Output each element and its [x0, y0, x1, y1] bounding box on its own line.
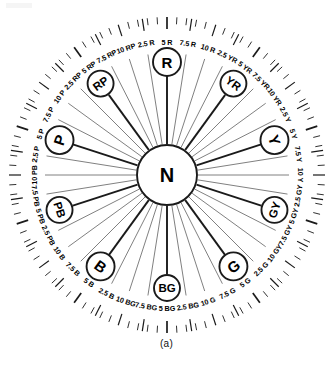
- minor-tick: [12, 145, 19, 146]
- hue-tick: [253, 293, 260, 303]
- hue-spoke: [177, 59, 205, 146]
- minor-tick: [270, 285, 275, 290]
- minor-tick: [10, 194, 17, 195]
- hue-tick: [55, 278, 63, 286]
- hue-tick: [270, 278, 278, 286]
- munsell-hue-circle-diagram: 5 R7.5 R10 R2.5 YR5 YR7.5 YR10 YR2.5 Y5 …: [0, 0, 333, 366]
- minor-tick: [137, 323, 138, 330]
- minor-tick: [12, 203, 19, 204]
- hue-tick: [118, 314, 122, 325]
- minor-tick: [195, 20, 196, 27]
- hue-tick-label: 10 B: [51, 245, 67, 262]
- hue-tick: [74, 293, 81, 303]
- minor-tick: [24, 239, 30, 242]
- hue-tick: [74, 47, 81, 57]
- minor-tick: [91, 37, 94, 43]
- hue-tick: [270, 63, 278, 71]
- hue-tick: [11, 150, 23, 152]
- hue-tick-label: 5 Y: [288, 128, 300, 141]
- hue-tick-label: 5 PB: [34, 207, 47, 225]
- minor-tick: [299, 248, 305, 251]
- hue-tick: [306, 220, 317, 224]
- hue-tick: [297, 103, 308, 108]
- hue-spoke: [81, 89, 145, 153]
- hue-tick: [190, 319, 192, 331]
- hue-tick-label: 5 GY: [287, 207, 301, 225]
- minor-tick: [20, 117, 27, 120]
- minor-tick: [66, 53, 70, 58]
- minor-tick: [147, 18, 148, 25]
- minor-tick: [34, 256, 40, 260]
- hue-tick: [39, 261, 49, 268]
- hue-spoke: [198, 180, 288, 194]
- hue-tick: [95, 34, 100, 45]
- minor-tick: [294, 256, 300, 260]
- minor-tick: [45, 271, 50, 275]
- hue-tick: [311, 198, 323, 200]
- hue-tick-label: 2.5 Y: [278, 105, 293, 124]
- hue-tick-label: 5 R: [162, 38, 174, 47]
- hue-tick: [142, 19, 144, 31]
- minor-tick: [283, 74, 288, 78]
- minor-tick: [313, 213, 320, 215]
- minor-tick: [34, 90, 40, 94]
- hue-spoke: [129, 59, 157, 146]
- hue-spoke: [177, 204, 205, 291]
- minor-tick: [10, 155, 17, 156]
- hue-tick-label: 7.5 BG: [135, 300, 159, 312]
- hue-tick-label: 7.5 P: [41, 105, 57, 124]
- hue-tick-label: 10 P: [52, 88, 68, 105]
- minor-tick: [307, 117, 314, 120]
- minor-tick: [52, 278, 57, 283]
- minor-tick: [109, 315, 112, 322]
- minor-tick: [304, 239, 310, 242]
- hue-spoke: [47, 180, 137, 194]
- hue-tick: [55, 63, 63, 71]
- minor-tick: [82, 302, 86, 308]
- hue-tick-label: 7.5 G: [218, 285, 238, 301]
- minor-tick: [294, 90, 300, 94]
- minor-tick: [313, 136, 320, 138]
- principal-hue-letter: R: [162, 54, 173, 71]
- minor-tick: [195, 323, 196, 330]
- hue-tick: [95, 305, 100, 316]
- hue-tick: [253, 47, 260, 57]
- hue-tick-label: 7.5 Y: [293, 146, 304, 164]
- minor-tick: [29, 99, 35, 102]
- hue-tick-label: 10 BG: [115, 294, 138, 309]
- hue-tick-label: 10 PB: [30, 165, 39, 184]
- minor-tick: [231, 32, 234, 38]
- minor-tick: [277, 278, 282, 283]
- minor-tick: [307, 231, 314, 234]
- minor-tick: [14, 213, 21, 215]
- minor-tick: [223, 28, 226, 35]
- hue-tick-label: 10 R: [200, 42, 218, 55]
- minor-tick: [82, 42, 86, 48]
- minor-tick: [205, 321, 207, 328]
- hue-tick-label: 2.5 P: [30, 145, 41, 163]
- hue-tick: [190, 19, 192, 31]
- hue-tick-label: 2.5 RP: [62, 70, 84, 92]
- minor-tick: [100, 312, 103, 318]
- minor-tick: [315, 203, 322, 204]
- hue-tick-label: 2.5 B: [97, 286, 116, 302]
- hue-tick-label: 7.5 GY: [277, 223, 295, 247]
- hue-tick-label: 7.5 PB: [30, 185, 42, 208]
- hue-tick-label: 10 YR: [265, 86, 284, 108]
- hue-spoke: [81, 197, 145, 261]
- hue-spoke: [189, 197, 253, 261]
- minor-tick: [100, 32, 103, 38]
- hue-tick: [26, 241, 37, 246]
- minor-tick: [248, 302, 252, 308]
- minor-tick: [317, 194, 324, 195]
- hue-tick: [142, 319, 144, 331]
- minor-tick: [147, 325, 148, 332]
- minor-tick: [137, 20, 138, 27]
- minor-tick: [231, 312, 234, 318]
- minor-tick: [299, 99, 305, 102]
- hue-spoke: [47, 156, 137, 170]
- hue-tick: [233, 305, 238, 316]
- hue-tick-label: 7.5 R: [179, 38, 198, 50]
- hue-tick-label: 2.5 BG: [176, 300, 200, 312]
- minor-tick: [240, 307, 243, 313]
